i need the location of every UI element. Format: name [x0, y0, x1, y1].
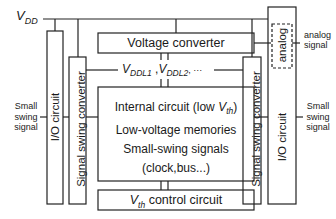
vdd-label: VDD — [16, 9, 38, 26]
voltage-converter-label: Voltage converter — [98, 37, 254, 50]
vth-control-label: Vth control circuit — [98, 194, 254, 209]
internal-circuit-label: Internal circuit (low Vth) Low-voltage m… — [98, 98, 254, 178]
right-io-label: I/O circuit — [276, 87, 288, 187]
left-io-label: I/O circuit — [49, 67, 61, 167]
left-signal-label: Smallswingsignal — [12, 101, 40, 133]
left-converter-label: Signal swing converter — [75, 59, 87, 199]
right-converter-label: Signal swing converter — [250, 59, 262, 199]
analog-block-label: analog — [276, 15, 288, 75]
analog-signal-label: analogsignal — [304, 30, 331, 50]
right-signal-label: Smallswingsignal — [303, 101, 333, 133]
vddl-label: VDDL1 ,VDDL2, ··· — [122, 63, 202, 78]
